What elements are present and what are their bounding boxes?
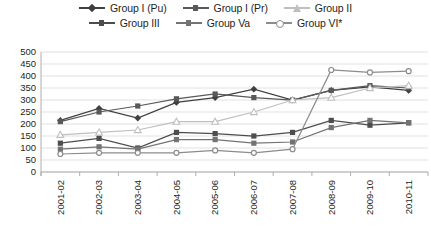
- data-point: [251, 133, 256, 138]
- x-tick-label: 2003-04: [132, 180, 143, 215]
- x-tick-label: 2008-09: [326, 180, 337, 215]
- series-polyline: [60, 120, 408, 148]
- data-point: [250, 86, 257, 93]
- data-point: [406, 69, 411, 74]
- y-tick-label: 300: [20, 94, 36, 105]
- data-point: [213, 137, 218, 142]
- x-tick-label: 2010-11: [403, 180, 414, 214]
- y-tick-label: 500: [20, 46, 36, 57]
- data-point: [251, 95, 256, 100]
- data-point: [213, 131, 218, 136]
- data-point: [251, 141, 256, 146]
- data-point: [174, 150, 179, 155]
- data-point: [97, 150, 102, 155]
- data-point: [213, 91, 218, 96]
- data-point: [174, 130, 179, 135]
- x-tick-label: 2002-03: [93, 180, 104, 215]
- data-point: [406, 120, 411, 125]
- data-point: [329, 125, 334, 130]
- x-tick-label: 2006-07: [248, 180, 259, 215]
- data-point: [367, 118, 372, 123]
- data-point: [134, 115, 141, 122]
- data-point: [96, 144, 101, 149]
- x-tick-label: 2001-02: [55, 180, 66, 215]
- data-point: [367, 123, 372, 128]
- y-tick-label: 250: [20, 106, 36, 117]
- data-point: [58, 152, 63, 157]
- x-tick-label: 2005-06: [209, 180, 220, 215]
- data-point: [290, 139, 295, 144]
- y-tick-label: 350: [20, 82, 36, 93]
- y-tick-label: 150: [20, 130, 36, 141]
- plot-area: 500450400350300250200150100500 2001-0220…: [0, 0, 431, 232]
- data-point: [329, 68, 334, 73]
- data-point: [135, 150, 140, 155]
- data-point: [367, 70, 372, 75]
- line-chart: Group I (Pu) Group I (Pr) Group II Group…: [0, 0, 431, 232]
- data-point: [213, 148, 218, 153]
- plot-svg: 500450400350300250200150100500 2001-0220…: [0, 0, 431, 232]
- series-group-i-pu: [57, 83, 412, 123]
- y-tick-label: 200: [20, 118, 36, 129]
- data-point: [174, 137, 179, 142]
- y-tick-label: 400: [20, 70, 36, 81]
- y-axis-tick-labels: 500450400350300250200150100500: [20, 46, 36, 177]
- data-point: [135, 103, 140, 108]
- series-group-i-pr: [58, 83, 412, 124]
- y-tick-label: 0: [31, 166, 36, 177]
- y-tick-label: 450: [20, 58, 36, 69]
- data-point: [96, 109, 101, 114]
- x-tick-label: 2004-05: [171, 180, 182, 215]
- data-point: [290, 147, 295, 152]
- x-tick-label: 2007-08: [287, 180, 298, 215]
- data-point: [58, 141, 63, 146]
- data-point: [96, 136, 101, 141]
- data-point: [251, 150, 256, 155]
- data-point: [174, 96, 179, 101]
- y-tick-label: 100: [20, 142, 36, 153]
- y-tick-label: 50: [25, 154, 36, 165]
- data-point: [329, 118, 334, 123]
- x-tick-label: 2009-10: [364, 180, 375, 215]
- x-axis-tick-labels: 2001-022002-032003-042004-052005-062006-…: [55, 180, 414, 215]
- data-point: [329, 88, 334, 93]
- data-point: [290, 130, 295, 135]
- data-point: [58, 119, 63, 124]
